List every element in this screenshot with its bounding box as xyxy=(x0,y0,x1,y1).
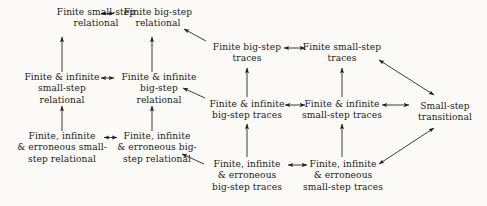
edge-fin-big-tr-to-fin-big-rel xyxy=(184,29,206,41)
node-finite-infinite-erroneous-small-step-traces: Finite, infinite & erroneous small-step … xyxy=(279,159,407,193)
node-small-step-transitional: Small-step transitional xyxy=(406,101,484,124)
node-finite-small-step-traces: Finite small-step traces xyxy=(286,42,398,65)
semantics-equivalence-diagram: Finite small-step relational Finite big-… xyxy=(0,0,487,206)
node-finite-big-step-relational: Finite big-step relational xyxy=(108,7,208,30)
edge-fin-small-tr-to-small-transitional xyxy=(379,60,434,95)
node-finite-big-step-traces: Finite big-step traces xyxy=(195,42,299,65)
node-finite-infinite-small-step-traces: Finite & infinite small-step traces xyxy=(280,99,404,122)
node-finite-infinite-small-step-relational: Finite & infinite small-step relational xyxy=(6,72,118,106)
